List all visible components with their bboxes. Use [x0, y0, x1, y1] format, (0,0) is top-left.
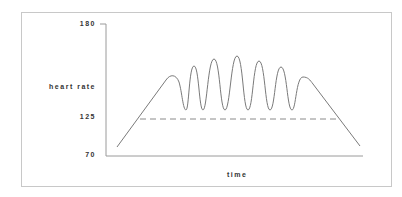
y-tick-label-125: 125: [36, 113, 96, 120]
y-axis-title: heart rate: [36, 83, 96, 90]
heart-rate-line: [117, 56, 360, 147]
y-tick-label-180: 180: [36, 20, 96, 27]
heart-rate-chart: [0, 0, 402, 197]
x-axis-title: time: [227, 171, 247, 178]
y-tick-label-70: 70: [36, 151, 96, 158]
